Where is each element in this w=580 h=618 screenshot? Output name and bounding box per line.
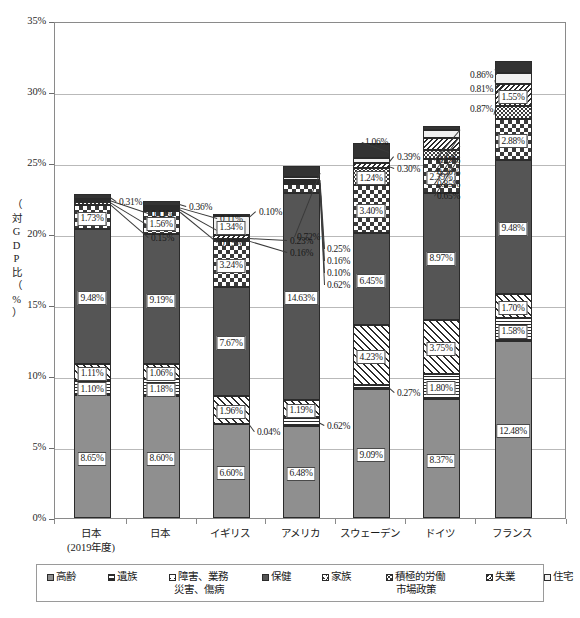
label-leader-line	[390, 167, 395, 169]
bar-value-label: 0.04%	[257, 427, 280, 438]
label-leader-line	[389, 156, 394, 162]
legend-item[interactable]: 積極的労働市場政策	[386, 570, 445, 596]
bar-value-label: 0.25%	[327, 244, 350, 255]
bar-value-label: 0.62%	[327, 421, 350, 432]
y-axis-tick-label: 10%	[14, 370, 46, 381]
y-axis-title-char: 比	[9, 266, 24, 280]
bar-value-label: 1.70%	[498, 301, 527, 315]
bar-value-label: 1.55%	[498, 90, 527, 104]
x-axis-tick-mark	[475, 519, 476, 524]
legend-item[interactable]: 住宅	[544, 570, 573, 583]
bar-value-label: 6.45%	[356, 274, 385, 288]
bar-segment-near-black[interactable]	[143, 201, 180, 206]
bar-value-label: 1.06%	[146, 367, 175, 381]
bar-value-label: 9.09%	[356, 448, 385, 462]
legend-label-line1: 失業	[495, 571, 515, 582]
bar-value-label: 7.67%	[216, 336, 245, 350]
bar-segment-dense-diagonal[interactable]	[74, 200, 111, 202]
label-leader-line	[250, 426, 255, 432]
legend-swatch-light-icon	[544, 574, 551, 581]
bar-segment-dense-diagonal[interactable]	[353, 163, 390, 167]
y-axis-tick-label: 30%	[14, 86, 46, 97]
bar-value-label: 1.06%	[365, 137, 388, 148]
bar-value-label: 2.88%	[498, 134, 527, 148]
bar-value-label: 0.36%	[189, 202, 212, 213]
bar-segment-dense-diagonal[interactable]	[283, 180, 320, 182]
bar-value-label: 0.16%	[290, 248, 313, 259]
bar-value-label: 3.40%	[356, 204, 385, 218]
bar-segment-light[interactable]	[353, 158, 390, 164]
x-axis-tick-mark	[265, 519, 266, 524]
y-axis-title-char: P	[9, 252, 24, 266]
legend-swatch-horizontal-lines-icon	[108, 574, 115, 581]
legend-swatch-checkerboard-icon	[322, 574, 329, 581]
bar-segment-horizontal-lines[interactable]	[353, 385, 390, 389]
bar-value-label: 9.19%	[146, 294, 175, 308]
bar-segment-near-black[interactable]	[74, 194, 111, 198]
legend-label-line1: 保健	[271, 571, 291, 582]
y-axis-tick-label: 20%	[14, 228, 46, 239]
bar-value-label: 1.80%	[426, 381, 455, 395]
bar-value-label: 0.62%	[327, 280, 350, 291]
bar-value-label: 1.10%	[77, 382, 106, 396]
bar-segment-light[interactable]	[283, 177, 320, 181]
legend-label-line2: 市場政策	[386, 583, 445, 596]
y-axis-tick-label: 15%	[14, 299, 46, 310]
legend-label-line2: 災害、傷病	[169, 583, 228, 596]
legend-swatch-solid-dark-icon	[262, 574, 269, 581]
bar-value-label: 0.85%	[437, 179, 460, 190]
bar-segment-near-black[interactable]	[283, 166, 320, 176]
bar-value-label: 9.48%	[498, 222, 527, 236]
y-axis-tick-label: 35%	[14, 15, 46, 26]
bar-segment-near-black[interactable]	[423, 126, 460, 130]
bar-value-label: 14.63%	[284, 291, 318, 305]
x-axis-category-label: フランス	[452, 527, 572, 541]
bar-segment-dots[interactable]	[495, 106, 532, 118]
x-axis-tick-mark	[335, 519, 336, 524]
bar-value-label: 0.15%	[220, 238, 243, 249]
legend-label-line1: 遺族	[117, 571, 137, 582]
bar-value-label: 8.97%	[426, 252, 455, 266]
bar-segment-near-black[interactable]	[495, 61, 532, 73]
y-axis-title-char: 対	[9, 212, 24, 226]
bar-value-label: 0.10%	[259, 207, 282, 218]
bar-value-label: 0.30%	[397, 164, 420, 175]
bar-value-label: 3.75%	[426, 342, 455, 356]
chart-root: （対GDP比（%） 0%5%10%15%20%25%30%35% 8.65%1.…	[0, 0, 580, 618]
bar-value-label: 3.24%	[216, 259, 245, 273]
bar-value-label: 0.65%	[437, 191, 460, 202]
legend-swatch-dots-icon	[386, 574, 393, 581]
x-axis-tick-mark	[405, 519, 406, 524]
label-leader-line	[320, 423, 325, 426]
legend-item[interactable]: 遺族	[108, 570, 137, 583]
bar-segment-dots[interactable]	[74, 202, 111, 204]
bar-value-label: 1.19%	[286, 404, 315, 418]
bar-segment-light[interactable]	[495, 73, 532, 85]
bar-value-label: 0.10%	[327, 268, 350, 279]
legend-item[interactable]: 高齢	[47, 570, 76, 583]
bar-value-label: 0.29%	[437, 155, 460, 166]
bar-segment-horizontal-lines[interactable]	[283, 417, 320, 426]
bar-value-label: 1.58%	[498, 325, 527, 339]
legend-item[interactable]: 障害、業務災害、傷病	[169, 570, 228, 596]
bar-value-label: 8.60%	[146, 452, 175, 466]
legend-item[interactable]: 保健	[262, 570, 291, 583]
legend-label-line1: 高齢	[56, 571, 76, 582]
legend-item[interactable]: 失業	[486, 570, 515, 583]
bar-value-label: 0.81%	[470, 84, 493, 95]
bar-value-label: 8.37%	[426, 454, 455, 468]
y-axis-tick-label: 5%	[14, 441, 46, 452]
label-leader-line	[390, 388, 395, 393]
bar-value-label: 1.11%	[78, 367, 107, 381]
bar-value-label: 0.16%	[327, 256, 350, 267]
bar-value-label: 0.87%	[470, 104, 493, 115]
legend-swatch-dense-diagonal-icon	[486, 574, 493, 581]
legend-item[interactable]: 家族	[322, 570, 351, 583]
bar-value-label: 0.56%	[437, 167, 460, 178]
x-axis-category-line2: (2019年度)	[31, 541, 151, 555]
bar-value-label: 0.15%	[151, 233, 174, 244]
label-leader-line	[180, 204, 187, 207]
y-axis-tick-label: 0%	[14, 512, 46, 523]
x-axis-category-line1: フランス	[452, 527, 572, 541]
bar-value-label: 1.56%	[146, 217, 175, 231]
